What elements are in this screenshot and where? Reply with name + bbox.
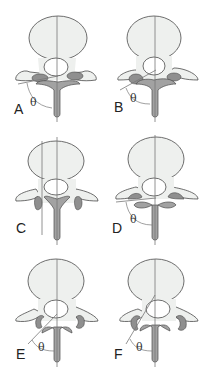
panel-c: C [0,125,107,249]
panel-label-e: E [16,346,25,362]
vertebra-diagram-b: θ B [106,0,213,124]
panel-label-f: F [114,346,123,362]
vertebra-diagram-c: C [0,125,107,249]
panel-e: θ E [0,247,107,371]
panel-f: θ F [106,247,213,371]
angle-theta-a: θ [30,96,37,109]
vertebra-diagram-e: θ E [0,247,107,371]
angle-theta-f: θ [136,341,143,354]
panel-d: θ D [106,125,213,249]
panel-label-c: C [16,220,26,236]
vertebra-diagram-d: θ D [106,125,213,249]
panel-label-d: D [112,220,122,236]
vertebra-diagram-f: θ F [106,247,213,371]
panel-b: θ B [106,0,213,124]
panel-a: θ A [0,0,107,124]
panel-label-a: A [14,101,24,117]
vertebra-diagram-a: θ A [0,0,107,124]
angle-theta-d: θ [130,213,137,226]
panel-label-b: B [114,99,123,115]
angle-theta-b: θ [130,92,137,105]
angle-theta-e: θ [38,341,45,354]
